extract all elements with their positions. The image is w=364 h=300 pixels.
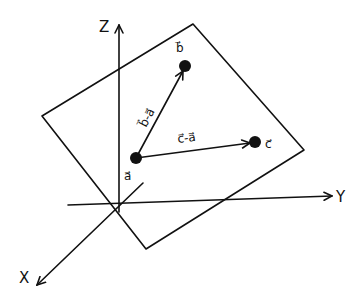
point-c-label: c⃗ [265,137,272,151]
x-axis-label: X [19,269,29,287]
x-axis [37,183,143,285]
y-axis-label: Y [335,188,346,206]
point-a-label: a⃗ [124,169,131,183]
vector-c-minus-a-label: c⃗-a⃗ [177,130,197,146]
point-b [179,60,191,72]
vector-c-minus-a [136,143,250,158]
point-c [249,136,261,148]
point-b-label: b⃗ [175,41,184,55]
z-axis-label: Z [99,18,109,36]
vector-b-minus-a-label: b⃗-a⃗ [135,106,157,131]
vector-plane-diagram: Z Y X b⃗-a⃗ c⃗-a⃗ a⃗ b⃗ c⃗ [0,0,364,300]
point-a [130,152,142,164]
